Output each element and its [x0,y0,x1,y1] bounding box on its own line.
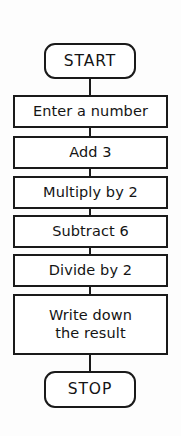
connector-add-to-multiply [89,169,91,176]
flowchart-node-stop-label: STOP [68,381,112,398]
flowchart-node-write-down-the-result: Write down the result [13,294,168,355]
flowchart-node-subtract-6-label: Subtract 6 [52,224,129,240]
flowchart-node-write-down-the-result-label: Write down the result [49,307,132,341]
flowchart-node-enter-a-number-label: Enter a number [33,104,148,120]
flowchart-node-add-3-label: Add 3 [69,145,111,161]
flowchart-node-subtract-6: Subtract 6 [13,215,168,248]
flowchart-node-enter-a-number: Enter a number [13,95,168,128]
flowchart-node-add-3: Add 3 [13,136,168,169]
connector-write-to-stop [89,355,91,371]
flowchart-node-stop: STOP [44,371,136,408]
flowchart-node-multiply-by-2-label: Multiply by 2 [43,185,138,201]
connector-start-to-enter [89,79,91,95]
flowchart-node-start-label: START [64,53,116,70]
connector-divide-to-write [89,287,91,294]
flowchart-node-divide-by-2: Divide by 2 [13,254,168,287]
connector-enter-to-add [89,128,91,136]
flowchart-diagram: START Enter a number Add 3 Multiply by 2… [0,0,181,436]
flowchart-node-multiply-by-2: Multiply by 2 [13,176,168,209]
flowchart-node-divide-by-2-label: Divide by 2 [49,263,132,279]
flowchart-node-start: START [44,43,136,79]
